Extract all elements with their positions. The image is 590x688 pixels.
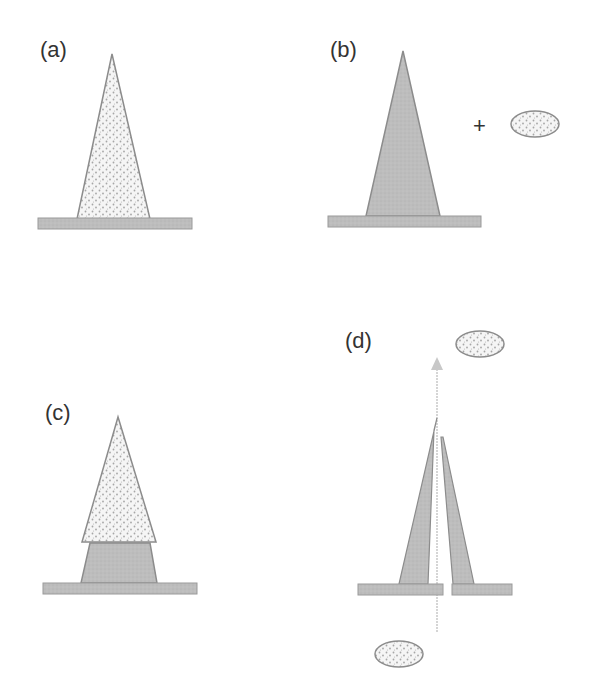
dotted-particle-top — [456, 331, 504, 357]
panel-d — [358, 331, 512, 667]
panel-label-d: (d) — [345, 328, 372, 354]
substrate — [38, 218, 192, 229]
plus-operator: + — [473, 113, 486, 139]
dotted-particle-bottom — [375, 641, 423, 667]
substrate — [328, 216, 481, 227]
substrate — [43, 583, 197, 594]
solid-cone — [366, 51, 440, 216]
dotted-cone — [82, 417, 156, 542]
split-cone-left — [399, 418, 437, 584]
panel-b — [328, 51, 559, 227]
dotted-particle — [511, 111, 559, 137]
split-cone-right — [441, 437, 474, 584]
panel-a — [38, 54, 192, 229]
panel-label-c: (c) — [45, 400, 71, 426]
panel-label-b: (b) — [330, 37, 357, 63]
dotted-cone — [77, 54, 150, 219]
substrate-left — [358, 584, 443, 595]
panel-c — [43, 417, 197, 594]
panel-label-a: (a) — [40, 37, 67, 63]
arrow-head-icon — [431, 357, 443, 370]
substrate-right — [452, 584, 512, 595]
diagram-canvas — [0, 0, 590, 688]
solid-truncated-cone — [81, 543, 157, 583]
